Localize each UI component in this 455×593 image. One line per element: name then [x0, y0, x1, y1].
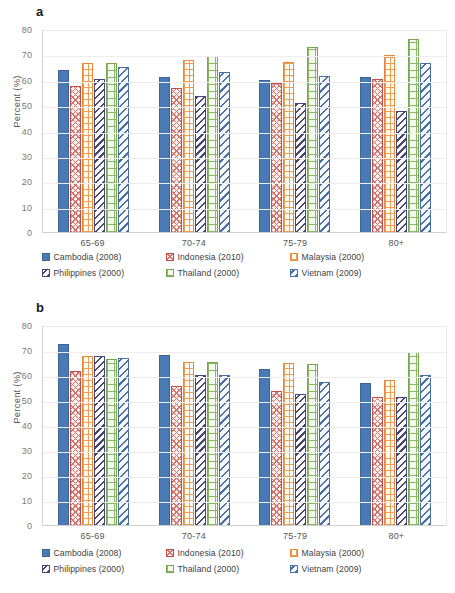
bar-philippines — [195, 375, 206, 526]
legend-row: Cambodia (2008)Indonesia (2010)Malaysia … — [0, 548, 455, 558]
legend-row: Philippines (2000)Thailand (2000)Vietnam… — [0, 564, 455, 574]
bar-philippines — [396, 397, 407, 526]
bar-indonesia — [271, 391, 282, 526]
philippines-swatch-icon — [42, 269, 50, 277]
gridline — [43, 82, 446, 83]
legend-item-indonesia[interactable]: Indonesia (2010) — [166, 252, 290, 262]
legend-item-vietnam[interactable]: Vietnam (2009) — [290, 564, 414, 574]
bar-vietnam — [118, 358, 129, 526]
bar-thailand — [408, 39, 419, 233]
x-tick-label: 70-74 — [143, 531, 244, 541]
bar-philippines — [295, 103, 306, 233]
legend-item-philippines[interactable]: Philippines (2000) — [42, 564, 166, 574]
cambodia-swatch-icon — [42, 253, 50, 261]
panel-b-plot — [42, 326, 447, 526]
legend-label: Malaysia (2000) — [302, 548, 365, 558]
gridline — [43, 209, 446, 210]
legend-item-indonesia[interactable]: Indonesia (2010) — [166, 548, 290, 558]
indonesia-swatch-icon — [166, 253, 174, 261]
legend-item-malaysia[interactable]: Malaysia (2000) — [290, 548, 414, 558]
gridline — [43, 452, 446, 453]
bar-philippines — [195, 96, 206, 233]
x-tick-label: 75-79 — [245, 531, 346, 541]
bar-vietnam — [219, 375, 230, 526]
legend-item-thailand[interactable]: Thailand (2000) — [166, 268, 290, 278]
gridline — [43, 427, 446, 428]
legend-item-malaysia[interactable]: Malaysia (2000) — [290, 252, 414, 262]
malaysia-swatch-icon — [290, 253, 298, 261]
legend-label: Indonesia (2010) — [178, 548, 244, 558]
y-tick-label: 50 — [10, 101, 32, 111]
legend-label: Philippines (2000) — [54, 564, 125, 574]
malaysia-swatch-icon — [290, 549, 298, 557]
y-tick-label: 40 — [10, 127, 32, 137]
gridline — [43, 477, 446, 478]
bar-cambodia — [159, 77, 170, 233]
gridline — [43, 402, 446, 403]
bar-philippines — [94, 79, 105, 233]
gridline — [43, 502, 446, 503]
legend-label: Malaysia (2000) — [302, 252, 365, 262]
bar-cambodia — [58, 344, 69, 526]
cambodia-swatch-icon — [42, 549, 50, 557]
y-tick-label: 20 — [10, 471, 32, 481]
legend-label: Vietnam (2009) — [302, 268, 362, 278]
panel-a: a Percent (%) 80706050403020100 65-6970-… — [0, 0, 455, 296]
bar-cambodia — [259, 80, 270, 233]
legend-item-vietnam[interactable]: Vietnam (2009) — [290, 268, 414, 278]
x-tick-label: 75-79 — [245, 238, 346, 248]
legend-item-philippines[interactable]: Philippines (2000) — [42, 268, 166, 278]
bar-thailand — [207, 56, 218, 233]
gridline — [43, 377, 446, 378]
bar-indonesia — [171, 386, 182, 527]
legend-row: Philippines (2000)Thailand (2000)Vietnam… — [0, 268, 455, 278]
x-tick-label: 65-69 — [42, 238, 143, 248]
bar-vietnam — [420, 375, 431, 526]
vietnam-swatch-icon — [290, 269, 298, 277]
bar-cambodia — [159, 355, 170, 527]
bar-thailand — [106, 63, 117, 233]
panel-b-plot-area: Percent (%) 80706050403020100 65-6970-74… — [0, 296, 455, 536]
y-tick-label: 70 — [10, 346, 32, 356]
panel-a-x-axis-line — [43, 232, 446, 233]
y-tick-label: 60 — [10, 371, 32, 381]
bar-vietnam — [420, 63, 431, 233]
bar-thailand — [307, 47, 318, 233]
gridline — [43, 107, 446, 108]
bar-malaysia — [183, 60, 194, 233]
legend-label: Philippines (2000) — [54, 268, 125, 278]
legend-row: Cambodia (2008)Indonesia (2010)Malaysia … — [0, 252, 455, 262]
gridline — [43, 352, 446, 353]
philippines-swatch-icon — [42, 565, 50, 573]
bar-philippines — [94, 356, 105, 527]
legend-item-cambodia[interactable]: Cambodia (2008) — [42, 252, 166, 262]
bar-thailand — [106, 359, 117, 526]
gridline — [43, 133, 446, 134]
bar-malaysia — [82, 356, 93, 526]
panel-b-x-ticks: 65-6970-7475-7980+ — [42, 531, 447, 541]
y-tick-label: 20 — [10, 177, 32, 187]
x-tick-label: 80+ — [346, 238, 447, 248]
y-tick-label: 30 — [10, 152, 32, 162]
gridline — [43, 56, 446, 57]
panel-a-plot-area: Percent (%) 80706050403020100 65-6970-74… — [0, 0, 455, 240]
y-tick-label: 70 — [10, 50, 32, 60]
gridline — [43, 183, 446, 184]
panel-a-plot — [42, 30, 447, 233]
bar-cambodia — [360, 77, 371, 233]
panel-b-y-ticks: 80706050403020100 — [10, 326, 32, 526]
y-tick-label: 0 — [10, 521, 32, 531]
vietnam-swatch-icon — [290, 565, 298, 573]
legend-item-cambodia[interactable]: Cambodia (2008) — [42, 548, 166, 558]
y-tick-label: 10 — [10, 496, 32, 506]
legend-item-thailand[interactable]: Thailand (2000) — [166, 564, 290, 574]
thailand-swatch-icon — [166, 269, 174, 277]
y-tick-label: 10 — [10, 203, 32, 213]
legend-label: Indonesia (2010) — [178, 252, 244, 262]
bar-cambodia — [360, 383, 371, 526]
panel-a-x-ticks: 65-6970-7475-7980+ — [42, 238, 447, 248]
y-tick-label: 50 — [10, 396, 32, 406]
bar-philippines — [396, 111, 407, 233]
bar-indonesia — [372, 79, 383, 233]
bar-indonesia — [372, 397, 383, 527]
